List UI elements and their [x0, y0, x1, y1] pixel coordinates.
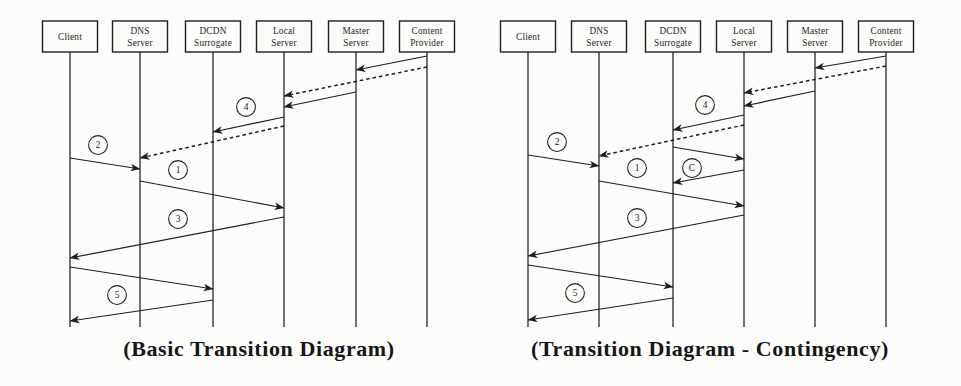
diagram-transition-diagram-contingency: ClientDNSServerDCDNSurrogateLocalServerM… [501, 21, 914, 327]
message-arrow-client-to-dcdn-surrogate-10 [528, 265, 673, 287]
message-arrow-dns-server-to-local-server-6 [140, 181, 284, 208]
step-badge-5-0: 5 [108, 286, 127, 305]
message-arrow-local-server-to-dcdn-surrogate-3 [213, 117, 284, 132]
step-badge-label-1: 1 [176, 165, 181, 175]
actor-box-dcdn-surrogate: DCDNSurrogate [186, 21, 241, 52]
actor-label-dns-server-line1: DNS [130, 26, 149, 36]
actor-label-client-line1: Client [58, 32, 82, 42]
step-badge-label-2: 2 [555, 137, 560, 147]
step-badge-c-1: C [683, 159, 702, 178]
message-arrow-content-provider-to-master-server-0 [815, 56, 886, 68]
actor-label-dns-server-line2: Server [127, 38, 153, 48]
actor-label-content-provider-line2: Provider [869, 38, 903, 48]
actor-label-dcdn-surrogate-line1: DCDN [199, 26, 226, 36]
message-arrow-dcdn-surrogate-to-client-11 [528, 298, 673, 320]
actor-label-dns-server-line1: DNS [589, 26, 608, 36]
message-arrow-client-to-dns-server-5 [70, 158, 140, 169]
message-arrow-client-to-dcdn-surrogate-8 [70, 267, 213, 289]
figure: ClientDNSServerDCDNSurrogateLocalServerM… [0, 0, 961, 386]
step-badge-4-0: 4 [237, 98, 256, 117]
actor-box-master-server: MasterServer [329, 21, 384, 52]
actor-box-client: Client [43, 21, 98, 52]
actor-label-content-provider-line1: Content [412, 26, 443, 36]
message-arrow-local-server-to-dns-server-4 [140, 126, 284, 158]
actor-label-dns-server-line2: Server [586, 38, 612, 48]
step-badge-2-0: 2 [89, 136, 108, 155]
step-badge-label-4: 4 [703, 100, 708, 110]
actor-label-local-server-line1: Local [273, 26, 295, 36]
step-badge-label-1: 1 [635, 163, 640, 173]
message-arrow-master-server-to-local-server-2 [744, 91, 815, 106]
message-arrow-dns-server-to-local-server-8 [599, 181, 744, 206]
step-badge-3-1: 3 [628, 209, 647, 228]
message-arrow-dcdn-surrogate-to-client-9 [70, 300, 213, 321]
actor-label-dcdn-surrogate-line2: Surrogate [194, 38, 232, 48]
actor-box-content-provider: ContentProvider [859, 21, 914, 52]
actor-label-master-server-line2: Server [343, 38, 369, 48]
step-badge-label-5: 5 [115, 290, 120, 300]
actor-label-local-server-line2: Server [271, 38, 297, 48]
actor-box-dns-server: DNSServer [113, 21, 168, 52]
actor-label-client-line1: Client [516, 32, 540, 42]
actor-label-content-provider-line2: Provider [410, 38, 444, 48]
step-badge-label-5: 5 [573, 288, 578, 298]
actor-box-local-server: LocalServer [717, 21, 772, 52]
actor-box-content-provider: ContentProvider [400, 21, 455, 52]
step-badge-3-0: 3 [169, 210, 188, 229]
actor-box-client: Client [501, 21, 556, 52]
actor-label-content-provider-line1: Content [871, 26, 902, 36]
actor-box-local-server: LocalServer [257, 21, 312, 52]
step-badge-label-c: C [689, 163, 695, 173]
actor-label-local-server-line1: Local [733, 26, 755, 36]
message-arrow-content-provider-to-master-server-0 [356, 56, 427, 70]
diagram-basic-transition-diagram: ClientDNSServerDCDNSurrogateLocalServerM… [43, 21, 455, 327]
step-badge-4-1: 4 [696, 96, 715, 115]
caption-transition-diagram-contingency: (Transition Diagram - Contingency) [531, 336, 889, 362]
actor-box-master-server: MasterServer [788, 21, 843, 52]
actor-box-dns-server: DNSServer [572, 21, 627, 52]
actor-label-master-server-line1: Master [342, 26, 370, 36]
sequence-diagrams: ClientDNSServerDCDNSurrogateLocalServerM… [0, 0, 961, 386]
step-badge-label-3: 3 [635, 213, 640, 223]
message-arrow-local-server-to-dcdn-surrogate-3 [673, 115, 744, 130]
actor-label-master-server-line1: Master [801, 26, 829, 36]
actor-label-local-server-line2: Server [731, 38, 757, 48]
caption-basic-transition-diagram: (Basic Transition Diagram) [123, 336, 394, 362]
step-badge-1-0: 1 [169, 161, 188, 180]
actor-label-master-server-line2: Server [802, 38, 828, 48]
step-badge-label-4: 4 [244, 102, 249, 112]
step-badge-1-1: 1 [628, 159, 647, 178]
actor-box-dcdn-surrogate: DCDNSurrogate [646, 21, 701, 52]
message-arrow-dcdn-surrogate-to-local-server-6 [673, 147, 744, 159]
message-arrow-master-server-to-local-server-2 [284, 92, 356, 107]
step-badge-2-1: 2 [548, 133, 567, 152]
step-badge-5-1: 5 [566, 284, 585, 303]
message-arrow-client-to-dns-server-5 [528, 155, 599, 166]
step-badge-label-3: 3 [176, 214, 181, 224]
step-badge-label-2: 2 [96, 140, 101, 150]
actor-label-dcdn-surrogate-line2: Surrogate [654, 38, 692, 48]
message-arrow-local-server-to-dns-server-4 [599, 125, 744, 156]
actor-label-dcdn-surrogate-line1: DCDN [659, 26, 686, 36]
